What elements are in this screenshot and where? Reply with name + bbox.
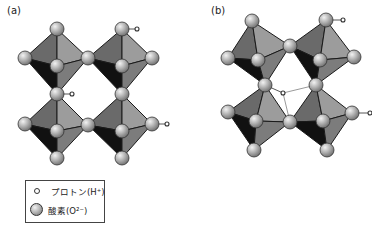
legend-proton-label: プロトン(H⁺) <box>51 185 105 197</box>
oxygen-atom <box>221 51 235 65</box>
panel-b-structure <box>221 13 372 157</box>
oxygen-atom <box>320 143 334 157</box>
oxygen-atom <box>18 117 32 131</box>
oxygen-atom <box>50 22 64 36</box>
legend-item-proton: プロトン(H⁺) <box>34 185 105 197</box>
proton <box>281 91 285 95</box>
proton <box>341 18 345 22</box>
proton-icon <box>34 188 40 194</box>
oxygen-atom <box>319 13 333 27</box>
panel-b-label: (b) <box>211 5 225 16</box>
oxygen-atom <box>145 117 159 131</box>
oxygen-atom <box>50 87 64 101</box>
oxygen-atom <box>115 124 129 138</box>
oxygen-atom <box>50 124 64 138</box>
legend-oxygen-label: 酸素(O²⁻) <box>48 204 87 216</box>
oxygen-atom <box>283 115 297 129</box>
oxygen-atom <box>347 50 361 64</box>
oxygen-atom <box>245 14 259 28</box>
oxygen-atom <box>50 151 64 165</box>
proton <box>368 111 372 115</box>
panel-a-structure <box>18 22 169 165</box>
oxygen-atom <box>313 53 327 67</box>
proton <box>165 122 169 126</box>
oxygen-atom <box>115 22 129 36</box>
oxygen-atom <box>115 87 129 101</box>
oxygen-atom <box>18 51 32 65</box>
oxygen-atom <box>309 78 323 92</box>
oxygen-atom <box>81 51 95 65</box>
oxygen-atom-icon <box>30 203 43 216</box>
oxygen-atom <box>145 51 159 65</box>
oxygen-atom <box>249 114 263 128</box>
oxygen-atom <box>115 59 129 73</box>
oxygen-atom <box>316 114 330 128</box>
perovskite-structure-diagram: (a) (b) プロトン(H⁺) 酸素(O²⁻) <box>0 0 372 230</box>
oxygen-atom <box>283 39 297 53</box>
proton <box>70 92 74 96</box>
legend-item-oxygen: 酸素(O²⁻) <box>30 203 87 216</box>
oxygen-atom <box>247 143 261 157</box>
oxygen-atom <box>221 105 235 119</box>
oxygen-atom <box>251 53 265 67</box>
legend-box: プロトン(H⁺) 酸素(O²⁻) <box>25 180 105 223</box>
oxygen-atom <box>345 106 359 120</box>
oxygen-atom <box>258 78 272 92</box>
oxygen-atom <box>50 59 64 73</box>
oxygen-atom <box>115 151 129 165</box>
oxygen-atom <box>81 118 95 132</box>
panel-a-label: (a) <box>7 5 21 16</box>
octahedron <box>290 20 354 85</box>
proton <box>135 27 139 31</box>
